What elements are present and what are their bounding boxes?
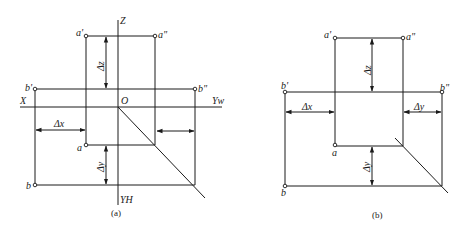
label-yh: YH bbox=[120, 194, 134, 205]
label-b: b bbox=[26, 180, 31, 191]
label-dx: Δx bbox=[301, 101, 313, 112]
point-a-prime bbox=[333, 36, 337, 40]
label-dy: Δy bbox=[361, 161, 372, 173]
label-o: O bbox=[121, 95, 128, 106]
label-dz: Δz bbox=[362, 65, 373, 76]
point-b-dprime bbox=[193, 87, 197, 91]
label-x: X bbox=[19, 95, 27, 106]
point-a-dprime bbox=[153, 34, 157, 38]
label-dz: Δz bbox=[95, 61, 106, 72]
projection-diagram: Z X O Yw YH a' a" b' b" a b Δx Δz Δy (a) bbox=[0, 0, 466, 235]
diagonal-45-line bbox=[395, 138, 448, 193]
label-a-prime: a' bbox=[76, 27, 84, 38]
label-z: Z bbox=[120, 15, 126, 26]
label-a-dprime: a" bbox=[406, 31, 416, 42]
figure-a: Z X O Yw YH a' a" b' b" a b Δx Δz Δy (a) bbox=[19, 15, 225, 218]
label-b-dprime: b" bbox=[440, 82, 450, 93]
label-a: a bbox=[332, 147, 337, 158]
label-b-dprime: b" bbox=[198, 83, 208, 94]
point-b-prime bbox=[33, 87, 37, 91]
point-a-dprime bbox=[401, 36, 405, 40]
caption-a: (a) bbox=[111, 208, 121, 218]
diagonal-45-line bbox=[118, 107, 205, 198]
label-yw: Yw bbox=[212, 95, 225, 106]
figure-b: a' a" b' b" a b Δx Δy Δz Δy (b) bbox=[281, 29, 450, 220]
point-a bbox=[84, 143, 88, 147]
label-b-prime: b' bbox=[281, 80, 289, 91]
caption-b: (b) bbox=[372, 210, 383, 220]
label-dy: Δy bbox=[95, 161, 106, 173]
label-a-prime: a' bbox=[324, 29, 332, 40]
label-a: a bbox=[77, 142, 82, 153]
label-dy-right: Δy bbox=[413, 101, 425, 112]
point-a-prime bbox=[84, 34, 88, 38]
label-a-dprime: a" bbox=[158, 29, 168, 40]
label-b-prime: b' bbox=[25, 82, 33, 93]
label-b: b bbox=[281, 187, 286, 198]
label-dx: Δx bbox=[53, 118, 65, 129]
point-b bbox=[33, 183, 37, 187]
